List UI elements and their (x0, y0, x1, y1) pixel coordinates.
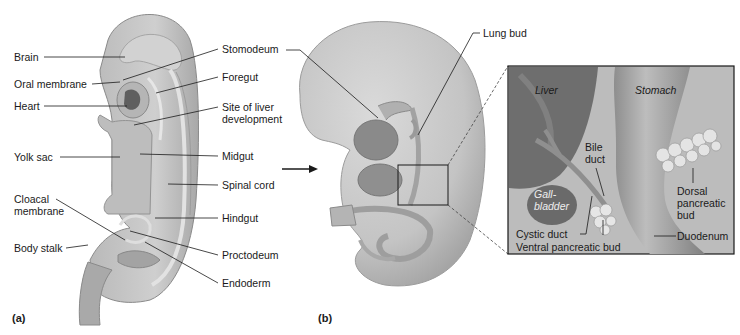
label-cystic-duct: Cystic duct (516, 228, 567, 240)
label-heart: Heart (14, 100, 40, 112)
label-bile-duct-1: Bile (585, 141, 603, 153)
label-spinal-cord: Spinal cord (222, 179, 275, 191)
label-ventral-pancreatic-bud: Ventral pancreatic bud (516, 241, 621, 253)
label-stomodeum: Stomodeum (222, 43, 279, 55)
label-hindgut: Hindgut (222, 212, 258, 224)
label-foregut: Foregut (222, 71, 258, 83)
label-gallbladder-1: Gall- (534, 188, 556, 200)
arrow-right-icon (282, 165, 318, 173)
label-duodenum: Duodenum (677, 230, 728, 242)
label-body-stalk: Body stalk (14, 242, 62, 254)
label-dorsal-2: pancreatic (677, 197, 725, 209)
label-liver-site-2: development (222, 113, 282, 125)
label-dorsal-1: Dorsal (677, 185, 707, 197)
label-bile-duct-2: duct (585, 153, 605, 165)
label-cloacal-membrane-2: membrane (14, 205, 64, 217)
label-stomach: Stomach (635, 84, 676, 96)
label-proctodeum: Proctodeum (222, 249, 279, 261)
label-gallbladder-2: bladder (534, 200, 569, 212)
panel-a-label: (a) (12, 312, 25, 324)
label-yolk-sac: Yolk sac (14, 151, 53, 163)
panel-b-embryo (300, 22, 485, 286)
label-lung-bud: Lung bud (483, 27, 527, 39)
label-endoderm: Endoderm (222, 277, 270, 289)
label-oral-membrane: Oral membrane (14, 78, 87, 90)
embryo-illustration (0, 0, 740, 335)
label-midgut: Midgut (222, 150, 254, 162)
label-dorsal-3: bud (677, 209, 695, 221)
panel-b-label: (b) (318, 312, 332, 324)
label-liver-site-1: Site of liver (222, 101, 274, 113)
label-brain: Brain (14, 51, 39, 63)
label-cloacal-membrane-1: Cloacal (14, 193, 49, 205)
label-liver: Liver (535, 84, 558, 96)
